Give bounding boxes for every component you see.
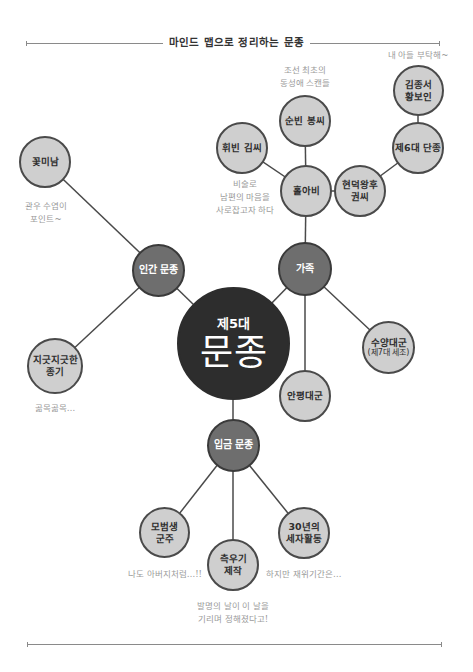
node-suyang-sub: (제7대 세조) (368, 348, 410, 358)
node-model-ruler: 모범생군주 (139, 507, 190, 558)
node-hwibin: 휘빈 김씨 (216, 122, 268, 174)
node-anpyeong: 안평대군 (279, 370, 331, 422)
node-rain-gauge-line2: 제작 (224, 565, 242, 576)
node-crown-prince-line2: 세자활동 (286, 533, 322, 544)
node-crown-prince: 30년의세자활동 (278, 507, 330, 559)
center-node-munjong: 제5대 문종 (177, 287, 290, 400)
note-sunbin: 조선 최초의 동성애 스캔들 (265, 64, 345, 90)
note-crown-prince: 하지만 재위기간은… (254, 568, 354, 581)
node-persistent-boil: 지긋지긋한종기 (27, 338, 83, 394)
branch-human: 인간 문종 (132, 244, 185, 297)
node-crown-prince-line1: 30년의 (288, 521, 319, 532)
node-anpyeong-label: 안평대군 (287, 390, 323, 402)
footer-rule (27, 644, 442, 645)
node-model-line2: 군주 (156, 533, 174, 544)
note-flower-boy: 관우 수염이 포인트~ (10, 200, 82, 226)
mind-map: 마인드 맵으로 정리하는 문종 제5대 문종 인간 문종 가족 입금 문종 꽃미… (0, 0, 473, 672)
branch-king: 입금 문종 (207, 419, 260, 472)
branch-family-label: 가족 (296, 263, 314, 276)
note-persistent: 곪목곪목… (20, 402, 90, 415)
node-persistent-line2: 종기 (46, 366, 64, 377)
node-kimjongseo-line1: 김종서 (405, 79, 432, 90)
node-hyeondeok: 현덕왕후권씨 (334, 165, 386, 217)
node-hwibin-label: 휘빈 김씨 (222, 142, 261, 154)
branch-king-label: 입금 문종 (214, 439, 253, 452)
node-flower-boy: 꽃미남 (19, 136, 71, 188)
node-suyang: 수양대군(제7대 세조) (362, 321, 415, 374)
center-title: 문종 (200, 335, 268, 371)
node-widower-label: 홀아비 (293, 185, 320, 197)
branch-human-label: 인간 문종 (139, 264, 178, 277)
node-sunbin: 순빈 봉씨 (279, 95, 331, 147)
center-subtitle: 제5대 (217, 316, 250, 332)
node-sunbin-label: 순빈 봉씨 (285, 115, 324, 127)
note-kimjongseo: 내 아들 부탁해~ (375, 49, 461, 62)
node-suyang-label: 수양대군 (371, 337, 407, 348)
node-flower-boy-label: 꽃미남 (32, 156, 59, 168)
note-hwibin: 비술로 남편의 마음을 사로잡고자 하다 (200, 178, 290, 216)
node-model-line1: 모범생 (151, 521, 178, 532)
node-kimjongseo: 김종서황보인 (393, 65, 444, 116)
note-model: 나도 아버지처럼…!! (110, 568, 220, 581)
node-danjong: 제6대 단종 (392, 122, 444, 174)
node-persistent-line1: 지긋지긋한 (33, 354, 78, 365)
node-hyeondeok-line1: 현덕왕후 (342, 179, 378, 190)
node-danjong-label: 제6대 단종 (395, 142, 441, 154)
branch-family: 가족 (278, 242, 332, 296)
node-rain-gauge-line1: 측우기 (220, 553, 247, 564)
node-kimjongseo-line2: 황보인 (405, 91, 432, 102)
note-rain-gauge: 발명의 날이 이 날을 기리며 정해졌다고! (183, 600, 283, 626)
node-rain-gauge: 측우기제작 (207, 539, 259, 591)
node-hyeondeok-line2: 권씨 (351, 191, 369, 202)
